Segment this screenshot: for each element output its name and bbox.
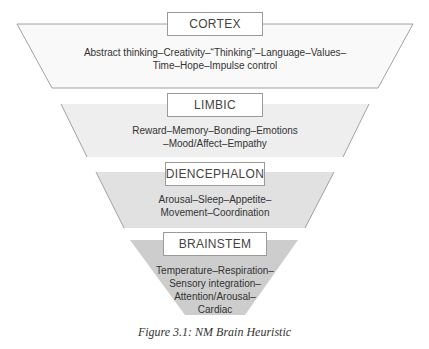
cortex-functions: Abstract thinking–Creativity–“Thinking”–… (30, 46, 400, 72)
diencephalon-functions-line-1: Arousal–Sleep–Appetite– (120, 193, 310, 206)
diencephalon-label: DIENCEPHALON (165, 162, 265, 186)
diencephalon-functions-line-2: Movement–Coordination (120, 206, 310, 219)
diencephalon-functions: Arousal–Sleep–Appetite– Movement–Coordin… (120, 193, 310, 219)
brainstem-functions-line-3: Attention/Arousal– (140, 290, 290, 303)
limbic-label: LIMBIC (167, 93, 263, 117)
cortex-functions-line-2: Time–Hope–Impulse control (30, 59, 400, 72)
limbic-functions-line-1: Reward–Memory–Bonding–Emotions (90, 124, 340, 137)
limbic-functions-line-2: –Mood/Affect–Empathy (90, 137, 340, 150)
brainstem-functions-line-1: Temperature–Respiration– (140, 264, 290, 277)
brainstem-label: BRAINSTEM (163, 232, 267, 256)
brainstem-functions-line-2: Sensory integration– (140, 277, 290, 290)
cortex-functions-line-1: Abstract thinking–Creativity–“Thinking”–… (30, 46, 400, 59)
limbic-functions: Reward–Memory–Bonding–Emotions –Mood/Aff… (90, 124, 340, 150)
brainstem-functions-line-4: Cardiac (140, 303, 290, 316)
brainstem-functions: Temperature–Respiration– Sensory integra… (140, 264, 290, 316)
figure-caption: Figure 3.1: NM Brain Heuristic (0, 325, 429, 340)
cortex-label: CORTEX (167, 12, 263, 36)
